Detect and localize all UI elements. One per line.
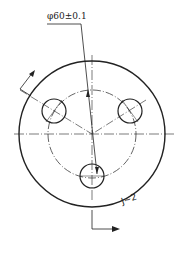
technical-drawing bbox=[0, 0, 195, 258]
centerline-left-hole bbox=[20, 90, 92, 134]
section-line-top bbox=[20, 72, 33, 96]
section-line-bottom bbox=[92, 210, 115, 229]
section-arrow-bottom bbox=[112, 226, 120, 232]
leader-arrow-tail bbox=[95, 167, 99, 174]
hole-right-crossline bbox=[122, 100, 138, 122]
diameter-dimension-label: φ60±0.1 bbox=[47, 11, 87, 21]
hole-left-crossline bbox=[46, 100, 62, 122]
